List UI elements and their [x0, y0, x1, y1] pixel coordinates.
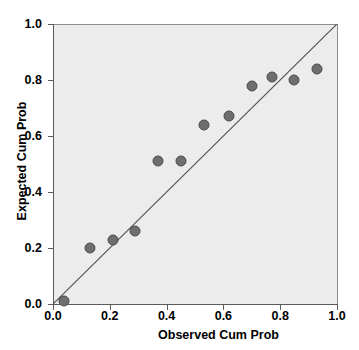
x-axis-title: Observed Cum Prob: [158, 328, 279, 342]
y-tick-mark: [48, 136, 53, 137]
data-point-marker: [107, 234, 118, 245]
y-tick-mark: [48, 248, 53, 249]
y-tick-label: 0.0: [25, 297, 42, 311]
axis-spine-top: [53, 24, 338, 25]
x-tick-label: 0.2: [101, 309, 118, 323]
cropped-title-remnant: [0, 0, 359, 8]
plot-area: [53, 24, 337, 304]
x-tick-label: 0.8: [271, 309, 288, 323]
y-tick-label: 1.0: [25, 17, 42, 31]
data-point-marker: [59, 296, 70, 307]
x-tick-label: 0.4: [158, 309, 175, 323]
y-tick-label: 0.8: [25, 73, 42, 87]
y-tick-mark: [48, 80, 53, 81]
data-point-marker: [84, 243, 95, 254]
data-point-marker: [175, 156, 186, 167]
data-point-marker: [130, 226, 141, 237]
axis-spine-left: [53, 24, 54, 305]
data-point-marker: [246, 80, 257, 91]
y-tick-mark: [48, 24, 53, 25]
chart-container: 0.00.20.40.60.81.0 0.00.20.40.60.81.0 Ob…: [0, 0, 359, 350]
data-point-marker: [198, 119, 209, 130]
y-axis-title: Expected Cum Prob: [15, 91, 29, 231]
data-point-marker: [224, 111, 235, 122]
data-point-marker: [266, 72, 277, 83]
x-tick-label: 0.6: [215, 309, 232, 323]
axis-spine-bottom: [53, 304, 338, 305]
data-point-marker: [289, 75, 300, 86]
y-tick-label: 0.2: [25, 241, 42, 255]
data-point-marker: [312, 63, 323, 74]
x-tick-label: 0.0: [44, 309, 61, 323]
x-tick-label: 1.0: [328, 309, 345, 323]
y-tick-mark: [48, 192, 53, 193]
axis-spine-right: [337, 24, 338, 305]
data-point-marker: [153, 156, 164, 167]
